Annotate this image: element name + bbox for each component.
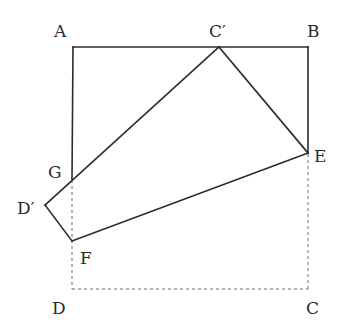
label-d: D <box>52 298 66 318</box>
segment-ag <box>72 47 73 180</box>
segment-fe <box>72 153 308 241</box>
label-c-prime: C′ <box>209 21 226 41</box>
label-e: E <box>314 146 326 166</box>
folded-rectangle-diagram: A C′ B G E D′ F D C <box>0 0 344 335</box>
label-g: G <box>48 162 62 182</box>
label-d-prime: D′ <box>17 198 35 218</box>
label-a: A <box>53 21 67 41</box>
label-f: F <box>80 248 92 268</box>
label-c: C <box>306 298 319 318</box>
label-b: B <box>307 21 320 41</box>
segment-c-prime-d-prime <box>45 47 219 205</box>
segment-d-prime-f <box>45 205 72 241</box>
segment-c-prime-e <box>219 47 308 153</box>
